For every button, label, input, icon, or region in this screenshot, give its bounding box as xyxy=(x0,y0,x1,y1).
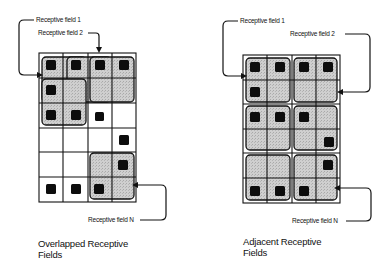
adjacent-caption-line1: Adjacent Receptive xyxy=(243,236,321,247)
field1-leader xyxy=(19,20,40,75)
overlapped-caption: Overlapped Receptive Fields xyxy=(38,238,128,260)
overlapped-caption-line2: Fields xyxy=(38,249,128,260)
field2-leader xyxy=(88,33,99,49)
overlapped-caption-line1: Overlapped Receptive xyxy=(38,238,128,249)
adjacent-field1-label: Receptive field 1 xyxy=(240,17,285,24)
adjacent-caption-line2: Fields xyxy=(243,247,321,258)
overlapped-field1-label: Receptive field 1 xyxy=(36,16,81,23)
adjacent-field2-label: Receptive field 2 xyxy=(290,30,335,37)
fieldN-leader xyxy=(338,188,371,221)
field1-leader xyxy=(223,21,244,76)
fieldN-leader xyxy=(137,185,166,220)
overlapped-field2-label: Receptive field 2 xyxy=(38,29,83,36)
adjacent-panel xyxy=(223,21,371,221)
adjacent-fieldN-label: Receptive field N xyxy=(292,217,338,224)
adjacent-caption: Adjacent Receptive Fields xyxy=(243,236,321,258)
overlapped-panel xyxy=(19,20,166,220)
arrowhead-icon xyxy=(96,47,102,53)
receptive-fields-diagram xyxy=(0,0,389,269)
overlapped-fieldN-label: Receptive field N xyxy=(88,216,134,223)
field2-leader xyxy=(341,34,370,92)
